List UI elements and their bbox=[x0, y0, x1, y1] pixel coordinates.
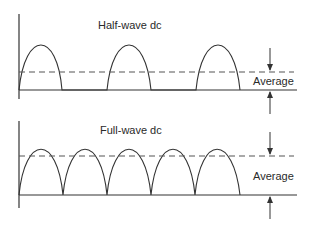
full-wave-title: Full-wave dc bbox=[100, 124, 162, 136]
half-wave-average-label: Average bbox=[253, 75, 294, 87]
full-wave-panel: Full-wave dc Average bbox=[19, 121, 297, 219]
half-wave-arrow-down-icon bbox=[267, 48, 273, 71]
half-wave-waveform bbox=[19, 45, 240, 90]
rectified-waveforms-diagram: Half-wave dc Average Full-wave dc Averag… bbox=[0, 0, 309, 228]
half-wave-title: Half-wave dc bbox=[98, 19, 162, 31]
half-wave-arrow-up-icon bbox=[267, 91, 273, 114]
half-wave-panel: Half-wave dc Average bbox=[19, 14, 297, 114]
full-wave-arrow-down-icon bbox=[267, 132, 273, 155]
full-wave-arrow-up-icon bbox=[267, 196, 273, 219]
full-wave-average-label: Average bbox=[253, 170, 294, 182]
